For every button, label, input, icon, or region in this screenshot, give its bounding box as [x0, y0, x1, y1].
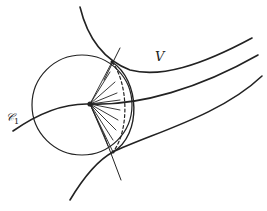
label-v: V [155, 50, 164, 63]
lens-bottom-point [111, 150, 114, 153]
lens-top-point [110, 60, 113, 63]
label-c1: 𝒞1 [6, 112, 19, 126]
circle [32, 55, 132, 155]
diagram-canvas [0, 0, 267, 211]
label-c1-subscript: 1 [14, 117, 19, 126]
curve-v [80, 7, 252, 72]
focal-point [87, 101, 92, 106]
label-c1-main: 𝒞 [6, 111, 14, 124]
ray-fan [90, 62, 120, 152]
